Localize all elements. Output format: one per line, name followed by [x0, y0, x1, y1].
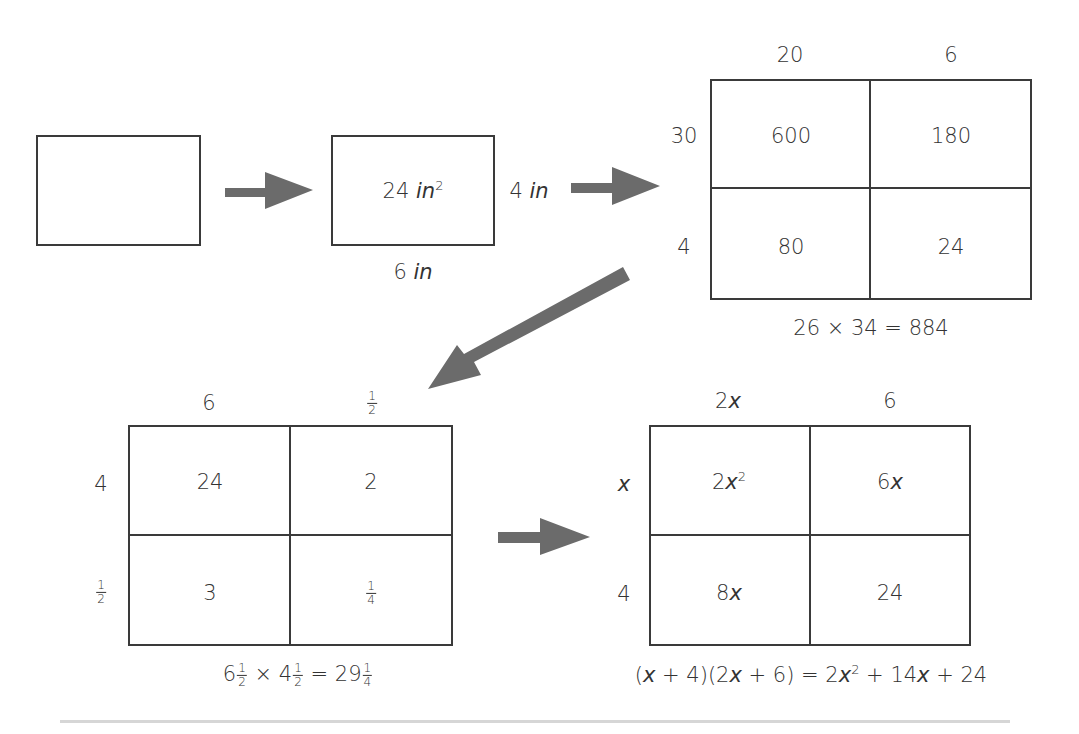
grid-cell: 24 — [197, 472, 224, 493]
arrow-right-icon — [225, 172, 313, 209]
grid-cell: 8x — [716, 583, 742, 604]
area-value: 24 — [383, 179, 410, 203]
fraction: 12 — [367, 390, 377, 416]
empty-rectangle — [36, 135, 201, 246]
fraction-grid-hdivider — [128, 534, 453, 536]
arrow-right-icon — [571, 167, 660, 205]
grid-cell: 3 — [203, 583, 216, 604]
row-header: 12 — [95, 579, 107, 605]
row-header: 4 — [617, 584, 630, 605]
grid-cell: 600 — [771, 126, 811, 147]
grid-cell: 24 — [938, 237, 965, 258]
fraction: 14 — [363, 662, 373, 688]
area-label: 24 in2 — [383, 181, 444, 202]
fraction-equation: 612 × 412 = 2914 — [223, 662, 373, 688]
width-unit: in — [413, 260, 432, 284]
grid-cell: 2 — [364, 472, 377, 493]
algebra-equation: (x + 4)(2x + 6) = 2x2 + 14x + 24 — [635, 665, 987, 686]
col-header: 20 — [777, 45, 804, 66]
col-header: 2x — [715, 391, 741, 412]
integer-grid-vdivider — [869, 79, 871, 300]
col-header: 12 — [366, 390, 378, 416]
area-unit: in — [416, 179, 435, 203]
grid-cell: 2x2 — [712, 472, 746, 493]
integer-equation: 26 × 34 = 884 — [793, 318, 948, 339]
grid-cell: 14 — [365, 580, 377, 606]
width-value: 6 — [393, 260, 406, 284]
grid-cell: 80 — [778, 237, 805, 258]
algebra-grid-hdivider — [649, 534, 971, 536]
fraction: 12 — [237, 662, 247, 688]
arrow-right-icon — [498, 518, 590, 555]
grid-cell: 6x — [877, 472, 903, 493]
grid-cell: 24 — [877, 583, 904, 604]
integer-grid-hdivider — [710, 187, 1032, 189]
width-label: 6 in — [393, 262, 432, 283]
height-value: 4 — [509, 179, 522, 203]
col-header: 6 — [202, 393, 215, 414]
row-header: x — [618, 474, 630, 495]
grid-cell: 180 — [931, 126, 971, 147]
fraction: 12 — [293, 662, 303, 688]
row-header: 4 — [677, 237, 690, 258]
arrow-down-left-icon — [428, 267, 630, 389]
integer-grid-outline — [710, 79, 1032, 300]
fraction: 14 — [366, 580, 376, 606]
fraction: 12 — [96, 579, 106, 605]
height-unit: in — [529, 179, 548, 203]
row-header: 30 — [671, 126, 698, 147]
row-header: 4 — [94, 474, 107, 495]
bottom-divider — [60, 720, 1010, 723]
area-exponent: 2 — [435, 178, 443, 193]
height-label: 4 in — [509, 181, 548, 202]
col-header: 6 — [944, 45, 957, 66]
col-header: 6 — [883, 391, 896, 412]
